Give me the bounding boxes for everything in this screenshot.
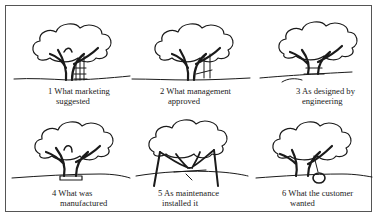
caption-6-line-2: wanted [252,199,374,209]
panel-6: 6 What the customer wanted [252,110,374,213]
tree-seat-through-trunk-icon [252,8,374,88]
caption-5: 5 As maintenance installed it [130,189,252,208]
caption-3: 3 As designed by engineering [252,87,374,106]
caption-1: 1 What marketing suggested [10,87,132,106]
caption-3-line-2: engineering [252,97,374,107]
tree-seat-against-trunk-icon [130,8,252,88]
caption-6: 6 What the customer wanted [252,189,374,208]
tree-seat-wrapped-trunk-icon [10,110,132,190]
panel-4: 4 What was manufactured [10,110,132,213]
tree-propped-by-posts-icon [130,110,252,190]
caption-4: 4 What was manufactured [10,189,132,208]
panel-1: 1 What marketing suggested [10,8,132,111]
tree-three-seat-swing-icon [10,8,132,88]
caption-2-line-2: approved [130,97,252,107]
panel-2: 2 What management approved [130,8,252,111]
tree-tire-swing-icon [252,110,374,190]
cartoon-frame: 1 What marketing suggested 2 What manage… [5,5,372,212]
caption-5-line-2: installed it [130,199,252,209]
caption-4-line-2: manufactured [10,199,132,209]
panel-3: 3 As designed by engineering [252,8,374,111]
caption-1-line-2: suggested [10,97,132,107]
panel-5: 5 As maintenance installed it [130,110,252,213]
caption-2: 2 What management approved [130,87,252,106]
